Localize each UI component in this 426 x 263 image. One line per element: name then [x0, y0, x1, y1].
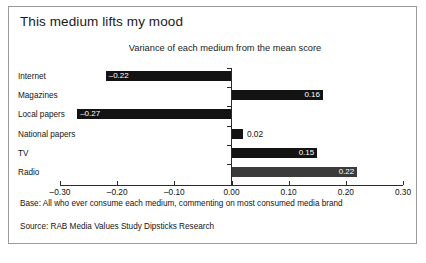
x-tick-label: 0.10: [281, 187, 297, 197]
zero-axis-notch: [227, 126, 231, 127]
bar-value-label: 0.22: [339, 167, 355, 177]
x-tick: [232, 181, 233, 185]
bar-national-papers: [232, 129, 243, 139]
category-label-tv: TV: [18, 149, 28, 158]
x-tick: [289, 181, 290, 185]
x-tick: [174, 181, 175, 185]
zero-axis-notch: [227, 106, 231, 107]
bar-value-label: –0.22: [109, 71, 129, 81]
x-tick-label: –0.30: [50, 187, 71, 197]
bar-value-label: 0.15: [299, 148, 315, 158]
zero-axis-notch: [227, 68, 231, 69]
category-label-magazines: Magazines: [18, 91, 58, 100]
x-tick-label: –0.20: [107, 187, 128, 197]
bar-value-label: 0.02: [247, 129, 263, 139]
category-label-national-papers: National papers: [18, 130, 75, 139]
figure-container: This medium lifts my mood Variance of ea…: [0, 0, 426, 263]
bar-local-papers: [77, 109, 231, 119]
footnote-base: Base: All who ever consume each medium, …: [20, 199, 343, 208]
x-tick-label: 0.30: [395, 187, 411, 197]
zero-axis-notch: [227, 164, 231, 165]
footnote-source: Source: RAB Media Values Study Dipsticks…: [20, 222, 214, 231]
zero-axis-notch: [227, 145, 231, 146]
x-tick: [60, 181, 61, 185]
bar-value-label: 0.16: [304, 90, 320, 100]
bar-value-label: –0.27: [80, 109, 100, 119]
category-label-internet: Internet: [18, 72, 46, 81]
x-tick: [117, 181, 118, 185]
page-margin: [0, 248, 426, 263]
category-label-local-papers: Local papers: [18, 110, 65, 119]
x-tick: [346, 181, 347, 185]
x-tick: [403, 181, 404, 185]
x-tick-label: 0.20: [338, 187, 354, 197]
category-label-radio: Radio: [18, 168, 39, 177]
x-tick-label: 0.00: [223, 187, 239, 197]
x-axis-line: [60, 185, 403, 186]
zero-axis-notch: [227, 87, 231, 88]
x-tick-label: –0.10: [164, 187, 185, 197]
